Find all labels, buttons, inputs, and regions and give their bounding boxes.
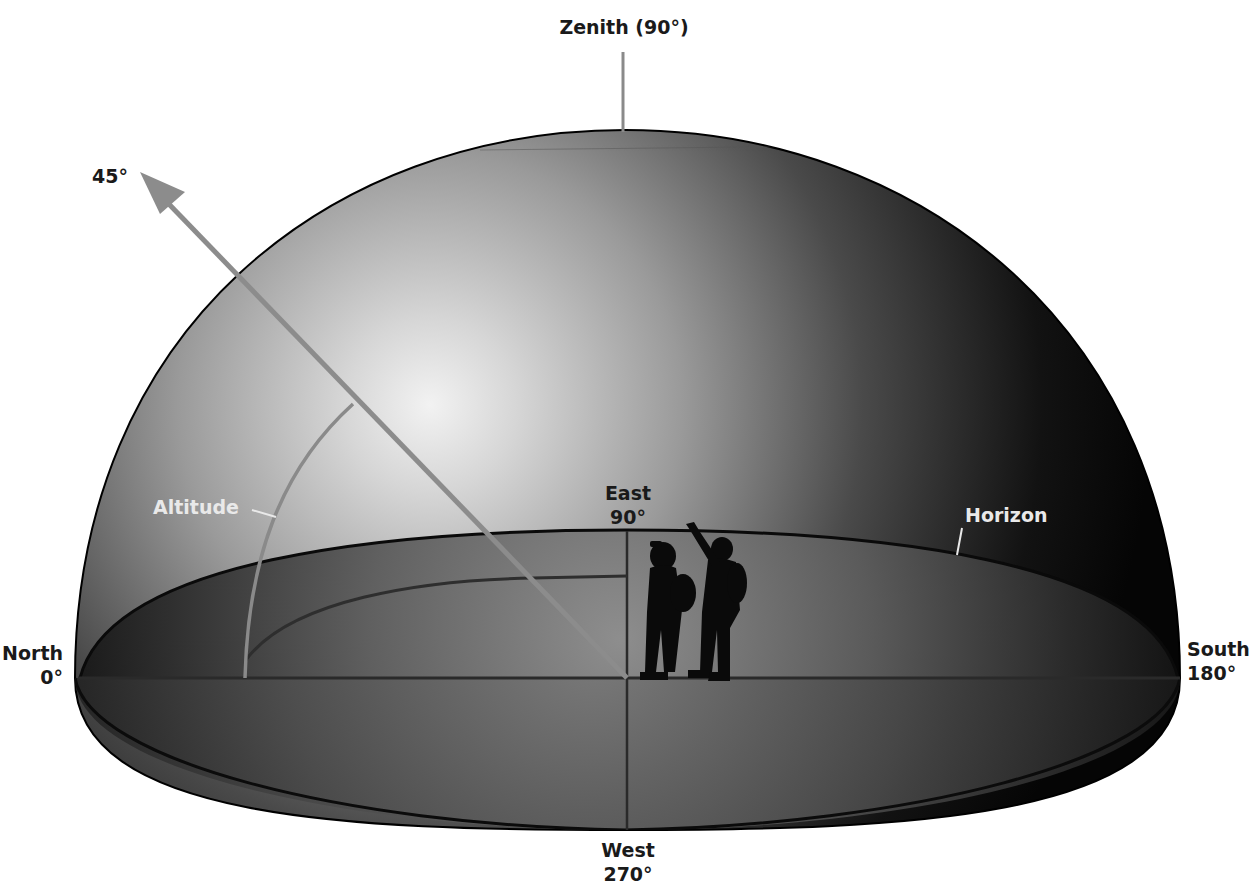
west-label: West [601, 839, 655, 861]
south-degree-label: 180° [1187, 662, 1236, 684]
zenith-label: Zenith (90°) [559, 16, 688, 38]
angle-45-label: 45° [92, 165, 128, 187]
altitude-label: Altitude [153, 496, 239, 518]
north-degree-label: 0° [40, 666, 63, 688]
diagram-canvas: Zenith (90°) 45° Altitude Horizon East 9… [0, 0, 1250, 894]
celestial-sphere-diagram: Zenith (90°) 45° Altitude Horizon East 9… [0, 0, 1250, 894]
east-label: East [605, 482, 651, 504]
north-label: North [2, 642, 63, 664]
east-degree-label: 90° [610, 506, 646, 528]
horizon-label: Horizon [965, 504, 1047, 526]
west-degree-label: 270° [603, 863, 652, 885]
south-label: South [1187, 638, 1250, 660]
